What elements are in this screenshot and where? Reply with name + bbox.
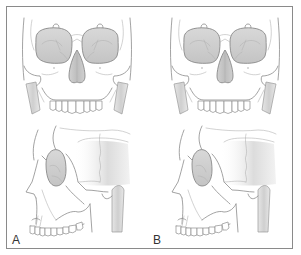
panel-a-lateral-skull <box>26 126 130 236</box>
panel-label-b: B <box>153 234 161 246</box>
panel-b-frontal-skull <box>171 18 280 114</box>
panel-b-lateral-skull <box>172 126 276 236</box>
skull-illustration <box>0 0 301 255</box>
panel-a-frontal-skull <box>23 18 132 114</box>
panel-label-a: A <box>12 234 20 246</box>
